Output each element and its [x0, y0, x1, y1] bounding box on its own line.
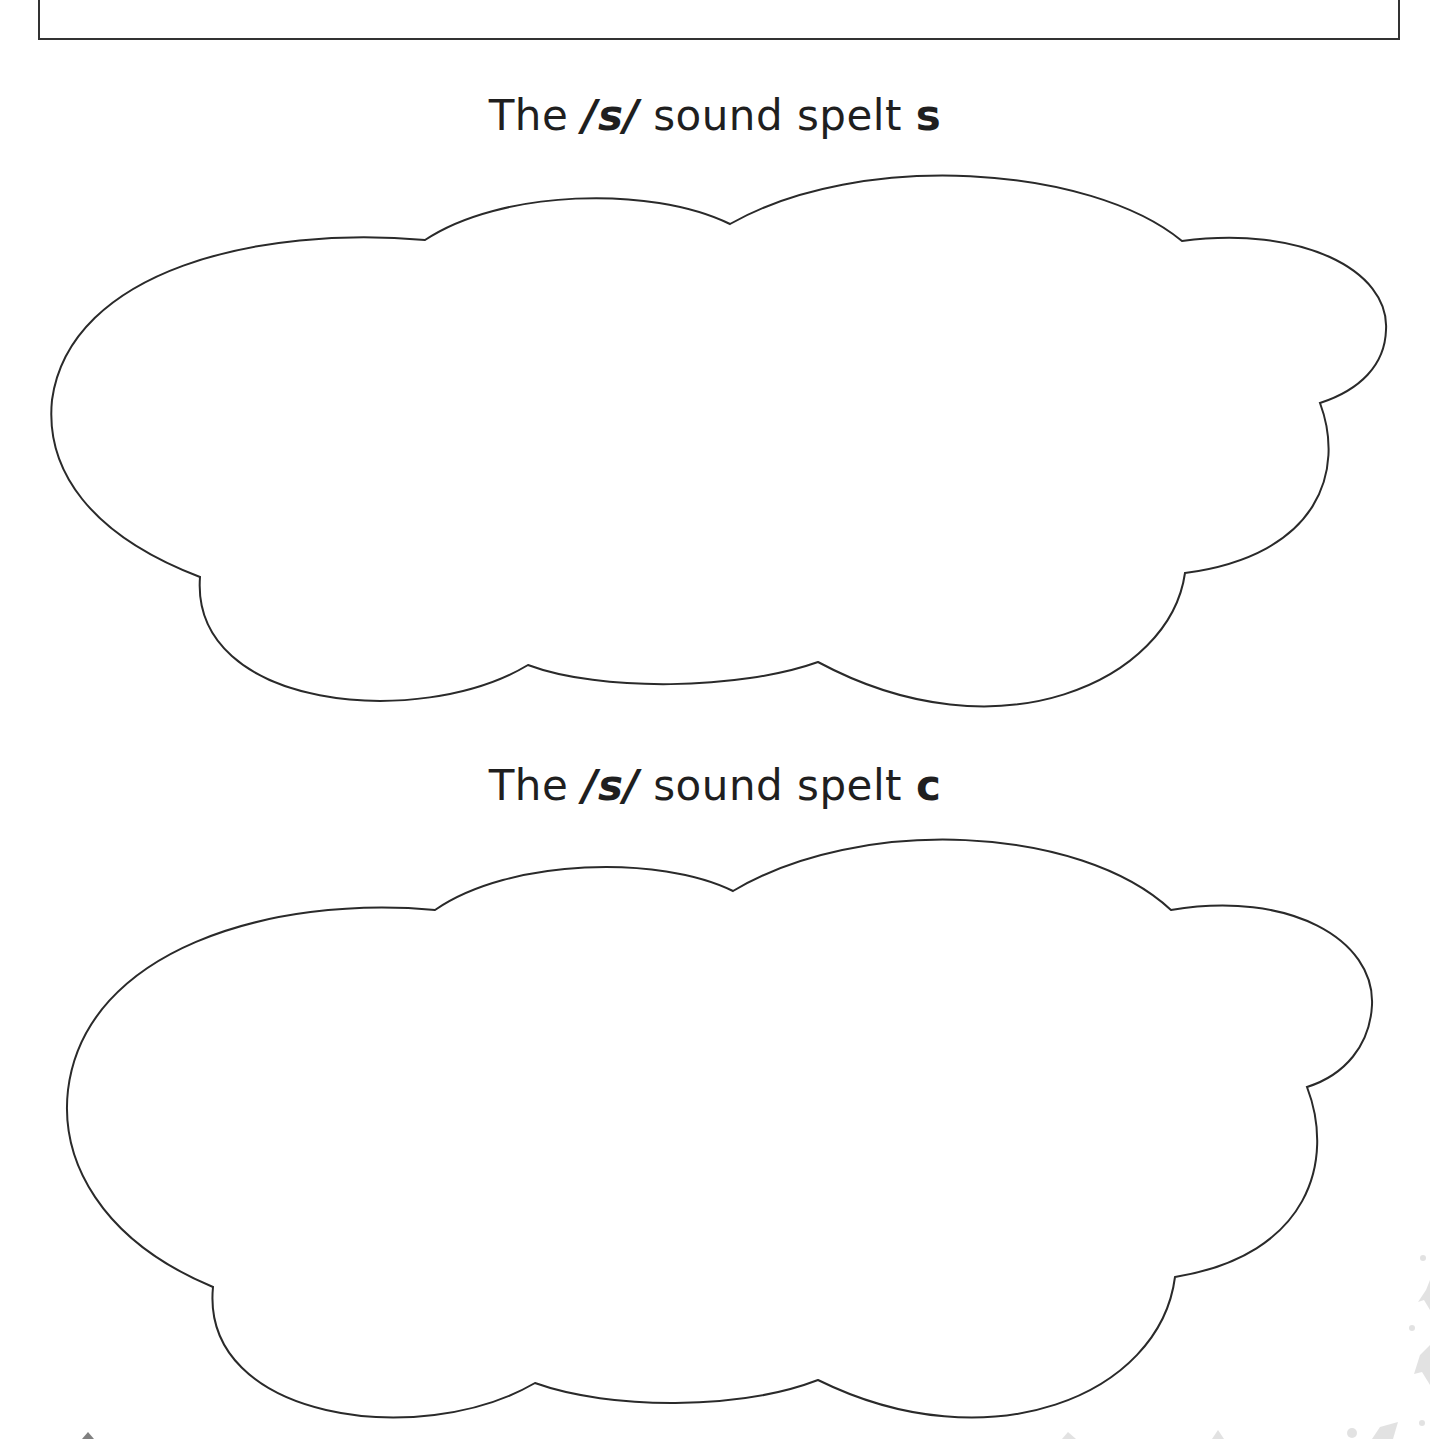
star-icon [1418, 1280, 1430, 1310]
star-icon [1414, 1345, 1430, 1385]
star-icon [82, 1432, 94, 1439]
star-icon [1062, 1432, 1076, 1439]
star-icon [1212, 1430, 1224, 1439]
cloud-answer-area-s[interactable] [51, 176, 1386, 707]
star-dot-icon [1409, 1325, 1415, 1331]
cloud-answer-area-c[interactable] [67, 840, 1372, 1418]
star-dot-icon [1419, 1420, 1425, 1426]
star-dot-icon [1420, 1255, 1426, 1261]
cloud-canvas [0, 0, 1430, 1439]
star-icon [1372, 1422, 1398, 1439]
star-dot-icon [1347, 1428, 1357, 1438]
